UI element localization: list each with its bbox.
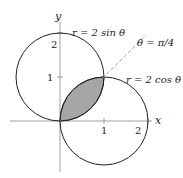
label-2cos: r = 2 cos θ — [126, 74, 181, 85]
y-tick-label-1: 1 — [47, 72, 53, 83]
x-axis-label: x — [155, 114, 162, 127]
x-tick-label-1: 1 — [101, 125, 107, 136]
label-2sin: r = 2 sin θ — [72, 27, 125, 38]
x-tick-label-2: 2 — [135, 125, 141, 136]
polar-diagram: y x 1 2 1 2 r = 2 sin θ r = 2 cos θ θ = … — [0, 0, 183, 178]
label-theta: θ = π/4 — [137, 37, 174, 48]
y-axis-label: y — [54, 10, 62, 23]
y-tick-label-2: 2 — [51, 39, 57, 50]
